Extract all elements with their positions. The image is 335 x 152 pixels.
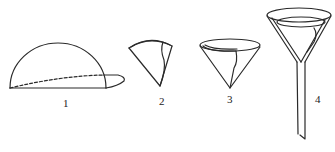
step-label-3: 3 (227, 94, 233, 105)
step-label-4: 4 (315, 94, 321, 105)
figure-3-cone (200, 39, 260, 88)
figure-2-quarter-fold (129, 40, 172, 86)
figure-1-half-folded-paper (10, 43, 124, 88)
figure-4-funnel (267, 8, 331, 139)
filter-paper-folding-diagram (0, 0, 335, 152)
step-label-2: 2 (159, 96, 165, 107)
step-label-1: 1 (63, 98, 69, 109)
